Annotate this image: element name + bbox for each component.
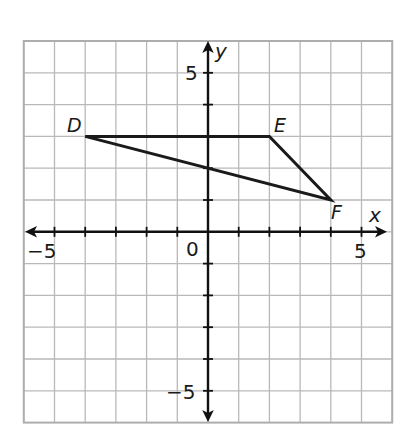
point-label-d: D (67, 114, 82, 136)
x-tick-label-pos5: 5 (354, 239, 367, 263)
coordinate-plane: x y 0 −5 5 5 −5 D E F (0, 0, 409, 444)
y-axis-label: y (214, 39, 228, 63)
x-axis-label: x (368, 203, 381, 227)
x-tick-label-neg5: −5 (27, 239, 56, 263)
y-tick-label-neg5: −5 (166, 380, 195, 404)
y-tick-label-pos5: 5 (185, 61, 198, 85)
origin-label: 0 (186, 237, 199, 261)
point-label-f: F (331, 201, 343, 223)
point-label-e: E (274, 114, 286, 136)
axes (25, 41, 387, 422)
